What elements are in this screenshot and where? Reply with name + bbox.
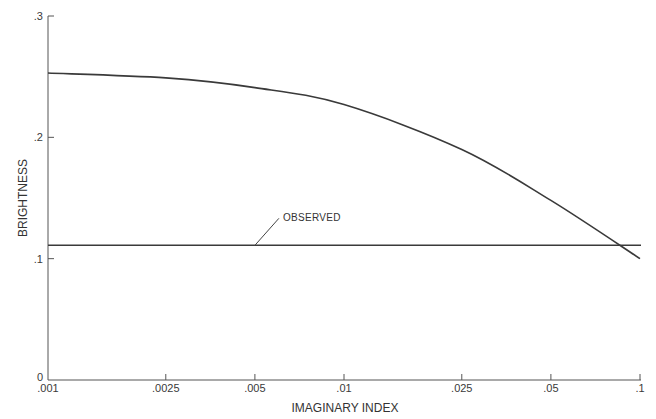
y-axis-title: BRIGHTNESS bbox=[16, 159, 30, 237]
y-tick-label: .1 bbox=[34, 253, 43, 265]
y-tick-label: .2 bbox=[34, 131, 43, 143]
x-tick-label: .05 bbox=[543, 382, 558, 394]
annotations: OBSERVED bbox=[255, 212, 341, 245]
axes bbox=[48, 16, 641, 380]
y-ticks: 0.1.2.3 bbox=[34, 10, 54, 383]
observed-label: OBSERVED bbox=[283, 212, 341, 223]
brightness-chart: 0.1.2.3 .001.0025.005.01.025.05.1 OBSERV… bbox=[0, 0, 656, 419]
x-tick-label: .01 bbox=[336, 382, 351, 394]
x-tick-label: .0025 bbox=[152, 382, 180, 394]
observed-leader-line bbox=[255, 218, 279, 245]
x-tick-label: .1 bbox=[635, 382, 644, 394]
x-tick-label: .005 bbox=[244, 382, 265, 394]
x-axis-title: IMAGINARY INDEX bbox=[292, 401, 399, 415]
x-tick-label: .001 bbox=[37, 382, 58, 394]
x-tick-label: .025 bbox=[451, 382, 472, 394]
series bbox=[48, 73, 641, 259]
y-tick-label: .3 bbox=[34, 10, 43, 22]
brightness-curve bbox=[48, 73, 640, 259]
x-ticks: .001.0025.005.01.025.05.1 bbox=[37, 374, 644, 394]
